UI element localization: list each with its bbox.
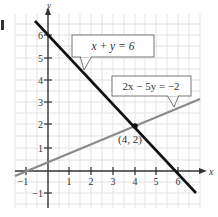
y-tick-label: 4 xyxy=(38,75,43,86)
series-line-2x-minus-5y xyxy=(15,99,200,176)
x-tick-label: 6 xyxy=(176,176,181,187)
x-tick-label: 1 xyxy=(67,176,72,187)
y-tick-label: 2 xyxy=(38,119,43,130)
y-axis-label: y xyxy=(46,0,51,10)
y-tick-label: 1 xyxy=(38,143,43,154)
y-tick-label: 3 xyxy=(38,97,43,108)
chart: −1 1 2 3 4 5 6 6 5 4 3 2 1 −1 x y (4, 2)… xyxy=(0,0,218,217)
x-axis-label: x xyxy=(208,166,214,177)
svg-text:x + y = 6: x + y = 6 xyxy=(91,40,135,53)
margin-marker xyxy=(1,20,4,30)
y-tick-label: 5 xyxy=(38,53,43,64)
x-tick-label: 3 xyxy=(111,176,116,187)
x-tick-label: 2 xyxy=(89,176,94,187)
x-tick-label: −1 xyxy=(18,176,29,187)
svg-text:2x − 5y = −2: 2x − 5y = −2 xyxy=(122,80,179,92)
intersection-label: (4, 2) xyxy=(118,133,142,146)
x-axis-arrow-icon xyxy=(199,168,207,174)
y-tick-label: −1 xyxy=(32,188,43,199)
x-tick-label: 4 xyxy=(133,176,138,187)
y-tick-label: 6 xyxy=(38,30,43,41)
intersection-point xyxy=(132,123,138,129)
x-tick-label: 5 xyxy=(154,176,159,187)
